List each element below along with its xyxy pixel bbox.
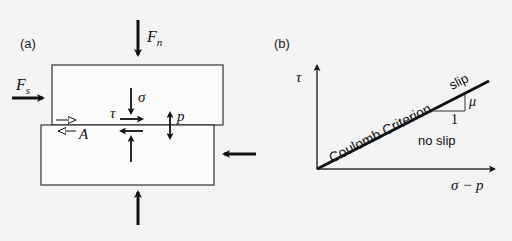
panel-a: (a) Fn Fs σ τ p A <box>12 20 256 225</box>
slip-region-label: slip <box>447 70 471 92</box>
figure: (a) Fn Fs σ τ p A (b) <box>0 0 512 241</box>
shear-force-label: Fs <box>15 76 30 96</box>
panel-a-label: (a) <box>20 36 36 51</box>
sigma-label: σ <box>138 89 146 105</box>
area-label: A <box>78 126 89 142</box>
slope-rise-label: μ <box>468 94 476 109</box>
no-slip-region-label: no slip <box>418 133 456 148</box>
lower-block <box>41 125 214 185</box>
panel-b-label: (b) <box>274 36 290 51</box>
tau-label: τ <box>110 105 116 121</box>
pore-pressure-label: p <box>176 108 185 124</box>
slope-run-label: 1 <box>451 112 458 127</box>
y-axis-label: τ <box>296 69 302 85</box>
normal-force-label: Fn <box>146 28 163 48</box>
panel-b: (b) τ σ − p 1 μ Coulomb Criterion slip n… <box>274 36 494 193</box>
x-axis-label: σ − p <box>451 177 484 193</box>
